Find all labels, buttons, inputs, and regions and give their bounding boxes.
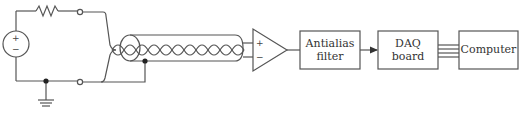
amplifier-icon bbox=[253, 29, 287, 71]
antialias-label-line2: filter bbox=[300, 50, 360, 63]
junction-dot-icon bbox=[43, 78, 48, 83]
junction-dot-icon bbox=[142, 58, 147, 63]
ground-icon bbox=[38, 81, 54, 106]
daq-label-line2: board bbox=[378, 50, 438, 63]
shielded-cable-icon bbox=[120, 35, 243, 61]
source-plus-sign: + bbox=[12, 34, 20, 43]
computer-label-line1: Computer bbox=[459, 43, 518, 56]
resistor-icon bbox=[36, 6, 58, 16]
amp-plus-input: + bbox=[256, 39, 264, 48]
bus-lines-icon bbox=[438, 45, 459, 57]
arrowhead-icon bbox=[370, 47, 378, 54]
source-minus-sign: − bbox=[12, 45, 20, 54]
twisted-pair-icon bbox=[112, 45, 244, 55]
daq-label-line1: DAQ bbox=[378, 37, 438, 50]
lead-wire bbox=[83, 12, 116, 50]
lead-wire bbox=[83, 50, 116, 82]
terminal-bottom-icon bbox=[77, 79, 82, 84]
terminal-top-icon bbox=[77, 9, 82, 14]
amp-minus-input: − bbox=[256, 53, 264, 62]
computer-label: Computer bbox=[459, 43, 518, 56]
antialias-label-line1: Antialias bbox=[300, 37, 360, 50]
daq-board-label: DAQ board bbox=[378, 37, 438, 63]
antialias-filter-label: Antialias filter bbox=[300, 37, 360, 63]
